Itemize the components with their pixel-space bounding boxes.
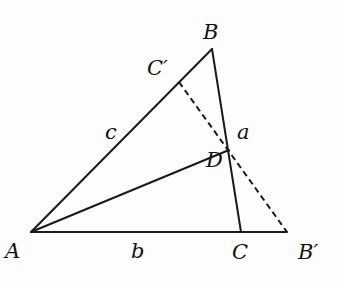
label-point-C-prime: C′	[147, 58, 168, 79]
segment-AB	[31, 49, 212, 232]
label-point-B: B	[203, 22, 218, 43]
segment-AD	[31, 150, 229, 232]
diagram-lines	[0, 0, 344, 281]
label-point-D: D	[206, 150, 223, 171]
label-side-a: a	[237, 122, 250, 143]
label-point-B-prime: B′	[298, 242, 318, 263]
triangle-diagram: B C′ c a D A b C B′	[0, 0, 344, 281]
segment-C-prime-B-prime-dashed	[179, 82, 287, 232]
label-side-c: c	[105, 122, 117, 143]
label-point-A: A	[5, 241, 20, 262]
label-side-b: b	[131, 241, 144, 262]
label-point-C: C	[232, 242, 248, 263]
